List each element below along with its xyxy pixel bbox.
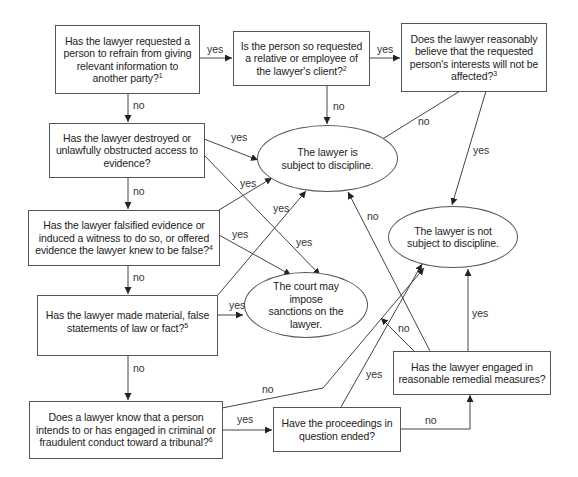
- edge-label-no: no: [398, 323, 410, 334]
- footnote-marker: 1: [159, 72, 163, 79]
- question-criminal-conduct-tribunal: Does a lawyer know that a person intends…: [29, 401, 223, 459]
- edge-label-no: no: [133, 100, 145, 111]
- edge-label-no: no: [262, 384, 274, 395]
- node-text: The lawyer is not subject to discipline.: [403, 225, 503, 250]
- outcome-not-subject-to-discipline: The lawyer is not subject to discipline.: [388, 206, 518, 268]
- question-refrain-from-giving-info: Has the lawyer requested a person to ref…: [55, 25, 200, 94]
- node-text: The court may impose sanctions on the la…: [267, 280, 345, 330]
- node-text: Does the lawyer reasonably believe that …: [410, 33, 539, 83]
- footnote-marker: 6: [209, 436, 213, 443]
- node-text: Has the lawyer falsified evidence or ind…: [35, 219, 209, 256]
- question-false-statements: Has the lawyer made material, false stat…: [37, 295, 218, 356]
- node-text: Has the lawyer requested a person to ref…: [64, 35, 192, 85]
- outcome-court-sanctions: The court may impose sanctions on the la…: [244, 272, 368, 338]
- edge-label-yes: yes: [473, 145, 489, 156]
- question-interests-not-affected: Does the lawyer reasonably believe that …: [401, 23, 547, 92]
- edge-label-no: no: [133, 363, 145, 374]
- question-destroyed-evidence: Has the lawyer destroyed or unlawfully o…: [49, 123, 205, 178]
- footnote-marker: 2: [343, 64, 347, 71]
- node-text: Has the lawyer engaged in reasonable rem…: [398, 361, 545, 386]
- node-text: Have the proceedings in question ended?: [282, 417, 393, 442]
- question-falsified-evidence: Has the lawyer falsified evidence or ind…: [28, 210, 220, 266]
- footnote-marker: 5: [184, 321, 188, 328]
- edge-label-yes: yes: [366, 369, 382, 380]
- edge-label-no: no: [133, 272, 145, 283]
- edge-label-no: no: [133, 186, 145, 197]
- node-text: Does a lawyer know that a person intends…: [36, 411, 216, 448]
- edge-label-no: no: [367, 211, 379, 222]
- edge-label-yes: yes: [231, 132, 247, 143]
- outcome-subject-to-discipline: The lawyer is subject to discipline.: [257, 125, 398, 192]
- edge-label-yes: yes: [237, 414, 253, 425]
- question-relative-or-employee: Is the person so requested a relative or…: [233, 31, 370, 86]
- node-text: Has the lawyer destroyed or unlawfully o…: [56, 132, 198, 169]
- edge-label-yes: yes: [240, 178, 256, 189]
- edge-label-no: no: [333, 101, 345, 112]
- edge-label-yes: yes: [207, 44, 223, 55]
- edge-label-yes: yes: [377, 44, 393, 55]
- question-proceedings-ended: Have the proceedings in question ended?: [273, 407, 401, 452]
- edge-label-no: no: [425, 415, 437, 426]
- edge-label-yes: yes: [296, 237, 312, 248]
- edge-label-no: no: [418, 116, 430, 127]
- edge-label-yes: yes: [229, 300, 245, 311]
- edge-label-yes: yes: [472, 308, 488, 319]
- footnote-marker: 4: [209, 244, 213, 251]
- footnote-marker: 3: [493, 70, 497, 77]
- question-remedial-measures: Has the lawyer engaged in reasonable rem…: [393, 351, 551, 395]
- edge-label-yes: yes: [273, 203, 289, 214]
- node-text: The lawyer is subject to discipline.: [280, 146, 375, 171]
- edge-label-yes: yes: [232, 229, 248, 240]
- edge-falsified-sanctions: [219, 235, 291, 275]
